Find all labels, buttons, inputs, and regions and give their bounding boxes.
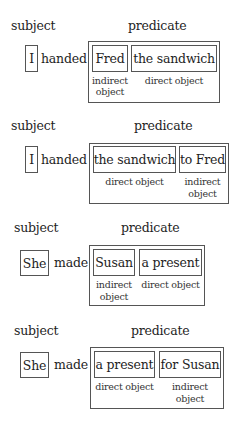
object-box-indirect: Fred xyxy=(92,45,128,72)
role-caption-indirect-1: indirect xyxy=(93,279,135,290)
verb: made xyxy=(54,358,88,372)
sentence-diagram-2: subject predicate I handed the sandwich … xyxy=(0,110,238,215)
sentence-diagram-4: subject predicate She made a present for… xyxy=(0,315,238,429)
role-caption-indirect-2: object xyxy=(179,188,226,199)
predicate-label: predicate xyxy=(121,221,179,235)
subject-label: subject xyxy=(14,221,58,235)
subject-box: She xyxy=(20,250,49,276)
verb: made xyxy=(54,256,88,270)
sentence-diagram-3: subject predicate She made Susan a prese… xyxy=(0,210,238,315)
predicate-label: predicate xyxy=(134,119,192,133)
predicate-label: predicate xyxy=(131,324,189,338)
object-box-direct: the sandwich xyxy=(131,45,217,72)
object-box-direct: the sandwich xyxy=(93,146,176,173)
role-caption-direct: direct object xyxy=(131,75,217,86)
role-caption-indirect-2: object xyxy=(159,393,221,404)
object-box-indirect: Susan xyxy=(93,249,135,276)
role-caption-indirect-2: object xyxy=(92,86,128,97)
subject-label: subject xyxy=(14,324,58,338)
role-caption-direct: direct object xyxy=(94,381,155,392)
role-caption-indirect-1: indirect xyxy=(179,176,226,187)
role-caption-indirect-2: object xyxy=(93,291,135,302)
role-caption-indirect-1: indirect xyxy=(159,381,221,392)
object-box-direct: a present xyxy=(139,249,202,276)
object-box-direct: a present xyxy=(94,351,155,378)
subject-label: subject xyxy=(11,19,55,33)
object-box-indirect: for Susan xyxy=(159,351,221,378)
role-caption-direct: direct object xyxy=(139,279,202,290)
subject-box: I xyxy=(25,45,38,72)
predicate-label: predicate xyxy=(128,19,186,33)
role-caption-indirect-1: indirect xyxy=(92,75,128,86)
subject-box: She xyxy=(20,352,49,378)
verb: handed xyxy=(41,52,87,66)
subject-box: I xyxy=(25,146,38,173)
sentence-diagram-1: subject predicate I handed Fred the sand… xyxy=(0,0,238,110)
object-box-indirect: to Fred xyxy=(179,146,226,173)
role-caption-direct: direct object xyxy=(93,176,176,187)
subject-label: subject xyxy=(11,119,55,133)
verb: handed xyxy=(41,153,87,167)
